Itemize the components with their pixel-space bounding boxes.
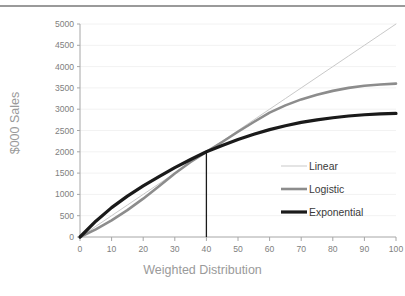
y-tick-label: 1500 xyxy=(55,168,74,178)
y-tick-label: 2000 xyxy=(55,147,74,157)
y-tick-label: 3500 xyxy=(55,83,74,93)
x-tick-label: 50 xyxy=(233,244,243,254)
y-tick-label: 2500 xyxy=(55,126,74,136)
x-tick-label: 20 xyxy=(138,244,148,254)
x-axis-ticks: 0102030405060708090100 xyxy=(78,237,404,254)
x-tick-label: 0 xyxy=(78,244,83,254)
x-tick-label: 60 xyxy=(265,244,275,254)
x-tick-label: 90 xyxy=(360,244,370,254)
y-axis-ticks: 0500100015002000250030003500400045005000 xyxy=(55,19,80,242)
legend-label-exponential: Exponential xyxy=(309,207,363,218)
y-tick-label: 500 xyxy=(60,211,75,221)
y-tick-label: 4000 xyxy=(55,62,74,72)
x-tick-label: 10 xyxy=(107,244,117,254)
y-tick-label: 4500 xyxy=(55,40,74,50)
y-tick-label: 0 xyxy=(69,232,74,242)
chart-figure: $000 Sales Weighted Distribution 0500100… xyxy=(0,0,405,296)
x-tick-label: 70 xyxy=(296,244,306,254)
y-tick-label: 1000 xyxy=(55,189,74,199)
x-tick-label: 80 xyxy=(328,244,338,254)
legend: LinearLogisticExponential xyxy=(281,161,363,218)
legend-label-logistic: Logistic xyxy=(309,184,344,195)
y-gridlines xyxy=(80,24,396,216)
x-tick-label: 100 xyxy=(389,244,404,254)
y-tick-label: 3000 xyxy=(55,104,74,114)
x-tick-label: 40 xyxy=(202,244,212,254)
legend-label-linear: Linear xyxy=(309,161,338,172)
y-tick-label: 5000 xyxy=(55,19,74,29)
x-tick-label: 30 xyxy=(170,244,180,254)
chart-plot-area: 0500100015002000250030003500400045005000… xyxy=(0,0,405,296)
